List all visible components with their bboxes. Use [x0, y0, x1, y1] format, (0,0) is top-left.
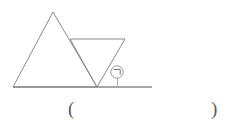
inverted-triangle: [70, 39, 125, 87]
answer-close-paren: ): [211, 96, 217, 122]
answer-row: ( ): [0, 96, 234, 126]
angle-label-circle: [111, 66, 123, 78]
geometry-figure-container: ( ): [0, 0, 234, 130]
upward-triangle: [13, 12, 97, 87]
answer-open-paren: (: [68, 96, 74, 122]
